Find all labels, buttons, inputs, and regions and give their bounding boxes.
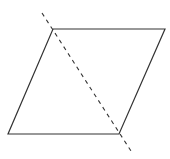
diagram-canvas [0,0,170,159]
dashed-diagonal-line [42,13,131,151]
parallelogram-diagram [0,0,170,159]
